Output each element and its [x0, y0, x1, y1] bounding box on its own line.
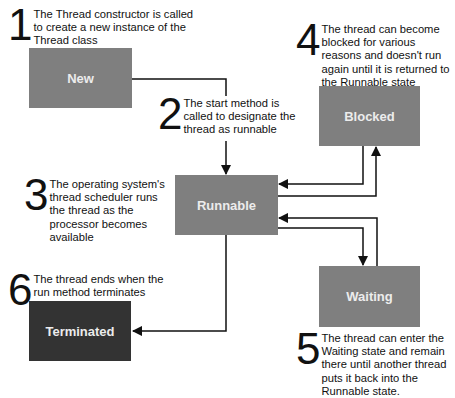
- step-3-annotation: 3 The operating system's thread schedule…: [24, 177, 174, 244]
- state-new-label: New: [67, 71, 94, 86]
- step-text: The start method is called to designate …: [183, 96, 303, 137]
- step-4-annotation: 4 The thread can become blocked for vari…: [296, 22, 455, 89]
- step-number: 1: [8, 7, 30, 43]
- step-1-annotation: 1 The Thread constructor is called to cr…: [8, 7, 228, 48]
- step-text: The thread can become blocked for variou…: [321, 22, 453, 89]
- state-terminated-label: Terminated: [45, 324, 114, 339]
- step-number: 2: [158, 96, 180, 132]
- state-blocked: Blocked: [319, 86, 420, 146]
- step-number: 3: [24, 177, 46, 213]
- step-6-annotation: 6 The thread ends when the run method te…: [8, 272, 178, 308]
- state-runnable: Runnable: [175, 175, 278, 235]
- step-text: The Thread constructor is called to crea…: [33, 7, 193, 48]
- arrow-blocked-to-runnable: [279, 146, 363, 184]
- state-waiting-label: Waiting: [346, 289, 392, 304]
- step-text: The thread ends when the run method term…: [33, 272, 163, 299]
- step-number: 6: [8, 272, 30, 308]
- step-2-annotation: 2 The start method is called to designat…: [158, 96, 328, 137]
- step-text: The operating system's thread scheduler …: [49, 177, 171, 244]
- arrow-runnable-to-waiting: [278, 228, 363, 265]
- state-terminated: Terminated: [29, 301, 131, 361]
- state-blocked-label: Blocked: [344, 109, 395, 124]
- state-runnable-label: Runnable: [197, 198, 256, 213]
- state-new: New: [29, 48, 132, 108]
- state-waiting: Waiting: [319, 266, 420, 327]
- step-text: The thread can enter the Waiting state a…: [321, 331, 449, 398]
- step-number: 4: [296, 22, 318, 58]
- arrow-runnable-to-blocked: [278, 147, 376, 196]
- step-5-annotation: 5 The thread can enter the Waiting state…: [296, 331, 455, 398]
- step-number: 5: [296, 331, 318, 367]
